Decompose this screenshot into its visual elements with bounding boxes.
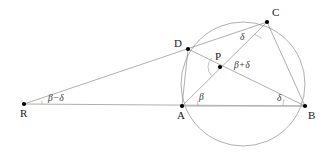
arc-B [283, 99, 284, 106]
segment-layer [24, 22, 305, 106]
segment-r-c [24, 22, 267, 104]
vertex-a [180, 104, 184, 108]
angle-C-label: δ [240, 32, 245, 42]
point-label-c: C [272, 6, 279, 18]
segment-c-b [267, 22, 305, 106]
geometry-diagram: RABCDP β−δβδδβ+δ [0, 0, 325, 159]
vertex-p [218, 65, 222, 69]
point-label-p: P [215, 50, 221, 62]
point-label-r: R [20, 107, 28, 119]
angle-A-label: β [198, 92, 204, 102]
angle-P-label: β+δ [233, 60, 250, 70]
segment-a-c [182, 22, 267, 106]
point-label-d: D [174, 37, 182, 49]
point-label-a: A [177, 109, 185, 121]
angle-label-layer: β−δβδδβ+δ [47, 32, 282, 103]
vertex-b [303, 104, 307, 108]
angle-arc-layer [42, 34, 284, 106]
vertex-d [186, 47, 190, 51]
arc-C [255, 34, 262, 38]
vertex-c [265, 20, 269, 24]
angle-B-label: δ [277, 93, 282, 103]
angle-R-label: β−δ [47, 93, 64, 103]
vertex-r [22, 102, 26, 106]
point-label-b: B [308, 109, 315, 121]
segment-d-b [188, 49, 305, 106]
diagram-canvas: RABCDP β−δβδδβ+δ [0, 0, 325, 159]
segment-a-d [182, 49, 188, 106]
